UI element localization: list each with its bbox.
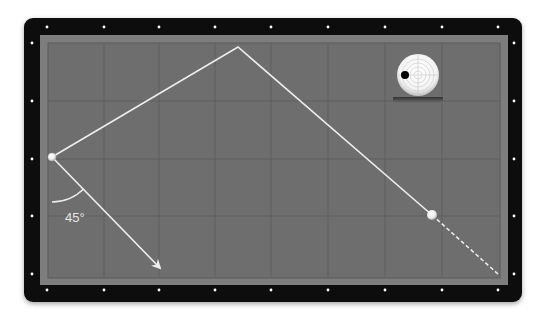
- diamond-marker-icon: [31, 42, 34, 45]
- diamond-marker-icon: [384, 289, 387, 292]
- diamond-marker-icon: [384, 26, 387, 29]
- spin-indicator-shadow: [393, 97, 443, 103]
- diamond-marker-icon: [327, 289, 330, 292]
- diamond-marker-icon: [270, 26, 273, 29]
- diamond-marker-icon: [31, 100, 34, 103]
- diamond-marker-icon: [441, 289, 444, 292]
- diamond-marker-icon: [103, 26, 106, 29]
- diamond-marker-icon: [31, 158, 34, 161]
- diamond-marker-icon: [158, 289, 161, 292]
- diamond-marker-icon: [513, 42, 516, 45]
- diamond-marker-icon: [441, 26, 444, 29]
- spin-contact-dot-icon: [401, 71, 409, 79]
- angle-label: 45°: [65, 210, 85, 225]
- diamond-marker-icon: [327, 26, 330, 29]
- cue-ball-icon: [48, 153, 56, 161]
- diamond-marker-icon: [46, 26, 49, 29]
- diamond-marker-icon: [214, 26, 217, 29]
- object-ball-icon: [427, 210, 437, 220]
- diamond-marker-icon: [103, 289, 106, 292]
- diamond-marker-icon: [513, 273, 516, 276]
- diamond-marker-icon: [497, 26, 500, 29]
- billiard-table-diagram: [0, 0, 548, 319]
- diamond-marker-icon: [46, 289, 49, 292]
- diamond-marker-icon: [214, 289, 217, 292]
- diamond-marker-icon: [513, 100, 516, 103]
- diamond-marker-icon: [513, 215, 516, 218]
- diamond-marker-icon: [31, 273, 34, 276]
- diamond-marker-icon: [31, 215, 34, 218]
- diamond-marker-icon: [158, 26, 161, 29]
- diamond-marker-icon: [497, 289, 500, 292]
- diamond-marker-icon: [513, 158, 516, 161]
- diamond-marker-icon: [270, 289, 273, 292]
